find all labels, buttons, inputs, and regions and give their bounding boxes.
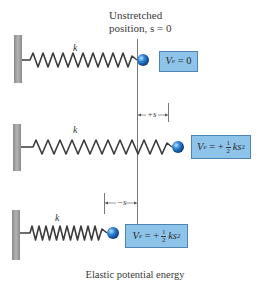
energy-box-unstretched: Ve = 0 (159, 51, 198, 72)
wall-icon (13, 124, 21, 171)
spring-constant-label: k (73, 124, 77, 135)
title-line-2: position, s = 0 (109, 22, 171, 35)
ball-icon (137, 54, 149, 66)
ball-icon (107, 227, 119, 239)
spring-icon (22, 53, 137, 67)
spring-icon (20, 226, 107, 240)
title-line-1: Unstretched (109, 9, 171, 22)
wall-icon (12, 210, 20, 260)
spring-constant-label: k (55, 212, 59, 223)
spring-icon (21, 140, 172, 154)
fraction-one-half: 12 (161, 229, 166, 244)
energy-box-compressed: Ve = + 12ks2 (125, 224, 188, 248)
energy-box-stretched: Ve = + 12ks2 (191, 135, 251, 159)
figure-caption: Elastic potential energy (0, 269, 261, 280)
compression-dimension-label: −s (117, 197, 127, 207)
spring-constant-label: k (73, 42, 77, 53)
fraction-one-half: 12 (226, 140, 231, 155)
reference-position-label: Unstretched position, s = 0 (109, 9, 171, 35)
stretch-dimension-label: +s (147, 109, 157, 119)
row-unstretched (14, 35, 149, 83)
wall-icon (14, 35, 22, 83)
row-stretched (13, 103, 184, 171)
ball-icon (172, 141, 184, 153)
